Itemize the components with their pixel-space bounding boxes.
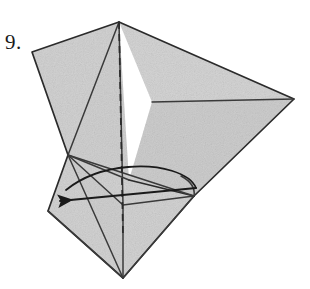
right-lower-flap	[129, 99, 294, 196]
origami-step-diagram: 9.	[0, 0, 310, 289]
paper-panels	[32, 22, 294, 278]
origami-figure	[0, 0, 310, 289]
